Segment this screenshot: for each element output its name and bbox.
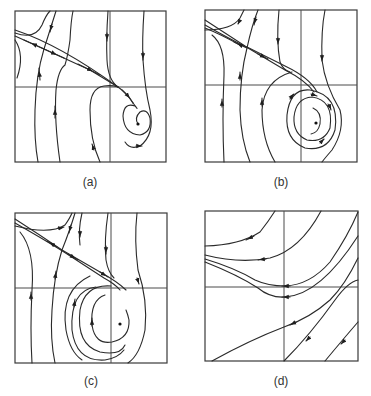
panel-c — [15, 213, 167, 363]
panel-d — [205, 211, 358, 361]
panel-d-label: (d) — [261, 374, 301, 388]
phase-portrait-figure — [0, 0, 371, 396]
panel-a-label: (a) — [70, 175, 110, 189]
panel-c-fixed-point — [118, 322, 121, 325]
panel-a-spiral — [123, 103, 150, 135]
panel-a — [15, 11, 166, 162]
panel-b-label: (b) — [261, 175, 301, 189]
panel-d-trajectory — [205, 211, 275, 246]
panel-b-frame — [205, 10, 357, 162]
panel-a-fixed-point — [136, 122, 139, 125]
panel-a-separatrix — [15, 36, 133, 103]
panel-c-label: (c) — [71, 374, 111, 388]
panel-b-fixed-point — [314, 121, 317, 124]
panel-b — [205, 10, 357, 162]
